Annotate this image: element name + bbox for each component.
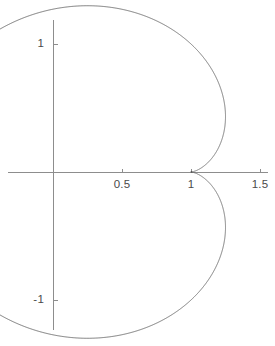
parametric-plot-figure: 0.511.51-1	[0, 0, 275, 346]
y-tick-label-neg1: -1	[0, 294, 44, 306]
axes-group	[8, 20, 268, 330]
y-tick-label-1: 1	[0, 38, 44, 50]
x-tick-label-1.5: 1.5	[252, 179, 269, 191]
x-tick-label-0.5: 0.5	[114, 179, 131, 191]
x-tick-label-1: 1	[188, 179, 195, 191]
